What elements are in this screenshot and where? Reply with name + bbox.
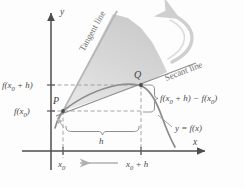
difference-label: f(x0 + h) − f(x0) bbox=[160, 93, 217, 105]
secant-line-label: Secant line bbox=[163, 59, 204, 83]
secant-line-label-group: Secant line bbox=[163, 59, 204, 83]
point-p-label: P bbox=[52, 95, 59, 106]
point-p-marker bbox=[61, 109, 65, 113]
sweep-wedge-fill bbox=[63, 14, 167, 111]
function-label: y = f(x) bbox=[174, 123, 202, 133]
h-brace bbox=[66, 126, 139, 135]
x-tick-right-label: x0 + h bbox=[125, 159, 149, 171]
x-tick-left-label: x0 bbox=[57, 159, 66, 171]
h-brace-label: h bbox=[99, 136, 104, 146]
derivative-figure: y = f(x) y x P Q Tangent line Secant bbox=[0, 0, 244, 188]
y-value-upper-label: f(x0 + h) bbox=[2, 80, 33, 92]
y-axis-label-text: y bbox=[59, 7, 65, 17]
figure-canvas: y = f(x) y x P Q Tangent line Secant bbox=[0, 0, 244, 188]
point-q-label: Q bbox=[134, 69, 142, 80]
limit-sweep-arrow-inner bbox=[168, 20, 184, 59]
x-axis-label-text: x bbox=[192, 137, 198, 147]
point-q-marker bbox=[139, 83, 143, 87]
y-value-lower-label: f(x0) bbox=[14, 106, 30, 118]
